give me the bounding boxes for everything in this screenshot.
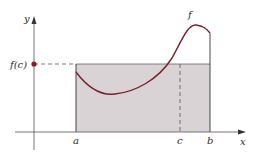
mvt-integral-diagram: y x f f(c) a c b	[0, 0, 256, 152]
function-label: f	[187, 9, 194, 20]
b-label: b	[207, 135, 213, 146]
mean-value-rectangle	[76, 64, 210, 132]
y-axis-arrow-icon	[32, 16, 37, 24]
x-axis-label: x	[240, 136, 246, 147]
fc-label: f(c)	[9, 59, 27, 70]
c-label: c	[177, 135, 183, 146]
a-label: a	[73, 135, 79, 146]
y-axis-label: y	[23, 13, 30, 24]
fc-point	[31, 61, 36, 66]
x-axis-arrow-icon	[238, 130, 246, 135]
